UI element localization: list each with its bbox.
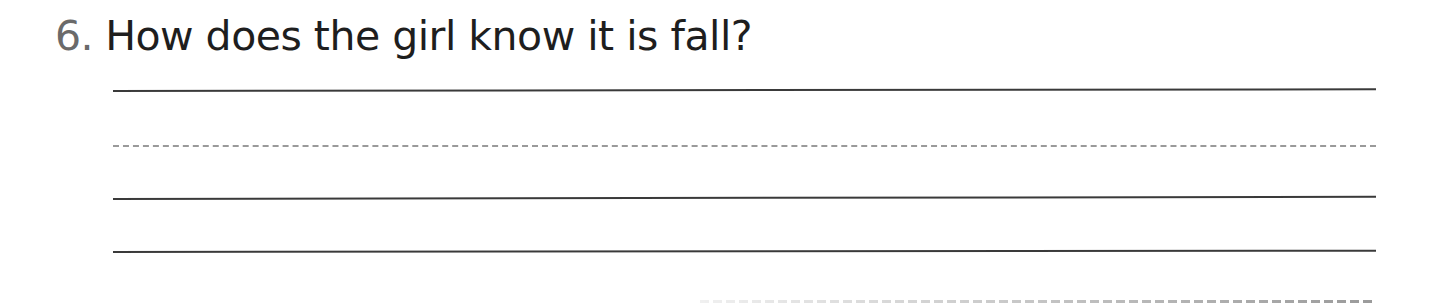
- question-text: How does the girl know it is fall?: [105, 12, 752, 60]
- answer-line-bottom-dashed: [700, 300, 1376, 303]
- answer-line-1[interactable]: [113, 88, 1376, 92]
- question: 6.How does the girl know it is fall?: [55, 8, 752, 64]
- question-number: 6.: [55, 12, 93, 60]
- answer-line-2[interactable]: [113, 196, 1376, 200]
- answer-line-3[interactable]: [113, 250, 1376, 253]
- answer-line-midline-dashed: [113, 145, 1376, 147]
